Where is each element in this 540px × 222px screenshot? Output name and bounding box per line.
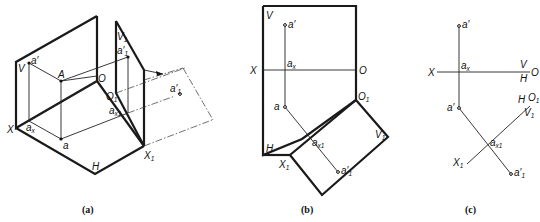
label-a-prime: a′: [31, 55, 40, 66]
projector-a-a1prime: [459, 108, 511, 174]
label-X1: X1: [278, 159, 290, 171]
label-X: X: [249, 65, 257, 76]
label-O1: O1: [358, 91, 370, 103]
dash-top: [144, 68, 183, 80]
dash-line-3: [144, 120, 212, 146]
projector-A-a1prime: [61, 57, 128, 81]
label-a-prime: a′: [288, 19, 297, 30]
label-V: V: [266, 10, 274, 21]
label-a1-prime: a′1: [514, 167, 525, 179]
label-X1: X1: [452, 157, 464, 169]
label-H: H: [92, 161, 100, 172]
label-V: V: [520, 59, 528, 70]
label-ax1: ax1: [490, 137, 503, 149]
label-X: X: [427, 67, 435, 78]
dash-right: [183, 68, 213, 120]
label-X: X: [6, 124, 14, 135]
h-plane-edge: [16, 128, 144, 174]
dash-line-2: [128, 96, 175, 113]
label-H2: H: [518, 94, 526, 105]
label-O1: O1: [528, 92, 540, 104]
panel-a: V a′ A O X ax a H V1 a′1 O1 ax1 X1 a′1 (…: [6, 16, 213, 216]
label-a1-prime-far: a′1: [170, 83, 181, 95]
label-V: V: [18, 63, 26, 74]
vh-plane-outline: [263, 6, 356, 155]
caption-a: (a): [82, 204, 94, 216]
point-a: [458, 107, 461, 110]
point-a: [284, 106, 287, 109]
label-ax1: ax1: [312, 137, 325, 149]
label-O: O: [98, 73, 106, 84]
caption-b: (b): [301, 204, 313, 216]
point-a-prime: [458, 25, 461, 28]
label-ax: ax: [287, 58, 297, 70]
v1-plane: [290, 100, 388, 195]
label-H: H: [266, 143, 274, 154]
line-ax-O: [29, 81, 97, 121]
point-a-prime: [284, 24, 287, 27]
point-a1-prime: [510, 173, 513, 176]
label-a1-prime: a′1: [117, 45, 128, 57]
label-ax: ax: [461, 60, 471, 72]
label-H: H: [520, 73, 528, 84]
point-a1-prime: [337, 171, 340, 174]
label-a: a: [274, 101, 280, 112]
label-O: O: [531, 67, 539, 78]
axis-X1-O1: [467, 106, 530, 164]
label-a: a′: [447, 102, 456, 113]
panel-c: a′ X ax V H O a′ H O1 V1 ax1 X1 a′1 (c): [427, 19, 540, 216]
label-a1-prime: a′1: [341, 165, 352, 177]
label-a: a: [63, 140, 69, 151]
line-A-O: [61, 76, 97, 81]
caption-c: (c): [465, 204, 476, 216]
label-O: O: [359, 65, 367, 76]
label-A: A: [57, 69, 65, 80]
label-X1: X1: [143, 150, 155, 162]
projection-diagram: V a′ A O X ax a H V1 a′1 O1 ax1 X1 a′1 (…: [0, 0, 540, 222]
label-V1: V1: [524, 107, 535, 119]
panel-b: V a′ X ax O a O1 ax1 V1 H X1 a′1 (b): [249, 6, 388, 216]
label-a-prime: a′: [462, 19, 471, 30]
label-V1: V1: [117, 31, 128, 43]
